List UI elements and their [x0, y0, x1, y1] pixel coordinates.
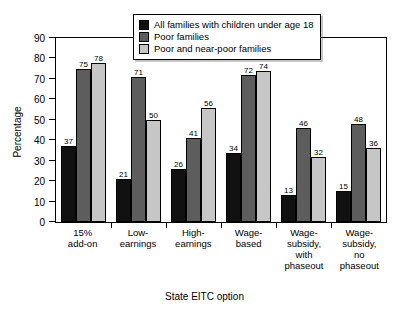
bar[interactable]: 72	[241, 75, 256, 222]
y-axis-tick: 20	[49, 180, 56, 181]
bar[interactable]: 46	[296, 128, 311, 222]
bar-value-label: 56	[204, 100, 213, 108]
bar-value-label: 41	[189, 130, 198, 138]
legend-label: Poor and near-poor families	[154, 43, 271, 55]
bar[interactable]: 15	[336, 191, 351, 222]
bar[interactable]: 75	[76, 69, 91, 222]
bar-value-label: 13	[284, 187, 293, 195]
y-axis-title-text: Percentage	[12, 52, 23, 212]
bar[interactable]: 13	[281, 195, 296, 222]
bar-slot: 48	[351, 38, 366, 222]
bar-slot: 74	[256, 38, 271, 222]
y-axis-tick-label: 70	[34, 73, 45, 84]
x-axis-category-label: Wage- subsidy, no phaseout	[332, 227, 387, 271]
bar-slot: 72	[241, 38, 256, 222]
bar[interactable]: 21	[116, 179, 131, 222]
bar[interactable]: 74	[256, 71, 271, 222]
bar-value-label: 72	[244, 67, 253, 75]
bar-slot: 34	[226, 38, 241, 222]
y-axis-tick: 90	[49, 37, 56, 38]
bar-value-label: 32	[314, 149, 323, 157]
x-axis-category-label: Wage- subsidy, with phaseout	[276, 227, 331, 271]
bar-chart: Percentage 0102030405060708090 377578217…	[0, 0, 409, 322]
y-axis-tick-label: 0	[39, 217, 45, 228]
x-axis-category-label: 15% add-on	[55, 227, 110, 271]
y-axis-tick: 0	[49, 221, 56, 222]
bar-value-label: 50	[149, 112, 158, 120]
bar-value-label: 48	[354, 116, 363, 124]
legend-item[interactable]: All families with children under age 18	[139, 19, 313, 31]
bar-value-label: 46	[299, 120, 308, 128]
bar-value-label: 15	[339, 183, 348, 191]
y-axis-tick: 40	[49, 139, 56, 140]
y-axis-tick: 10	[49, 201, 56, 202]
bar-groups: 377578217150264156347274134632154836	[56, 38, 386, 222]
bar-group: 377578	[56, 38, 111, 222]
bar-slot: 13	[281, 38, 296, 222]
bar-group: 347274	[221, 38, 276, 222]
bar-value-label: 21	[119, 171, 128, 179]
bar[interactable]: 36	[366, 148, 381, 222]
x-axis-title: State EITC option	[0, 291, 409, 302]
bar[interactable]: 48	[351, 124, 366, 222]
bar[interactable]: 71	[131, 77, 146, 222]
y-axis-tick: 60	[49, 98, 56, 99]
bar-group: 264156	[166, 38, 221, 222]
legend-item[interactable]: Poor families	[139, 31, 313, 43]
legend-color-swatch	[139, 20, 149, 30]
bar-value-label: 26	[174, 161, 183, 169]
bar-value-label: 74	[259, 63, 268, 71]
legend-color-swatch	[139, 32, 149, 42]
x-axis-category-labels: 15% add-onLow- earningsHigh- earningsWag…	[55, 227, 387, 271]
y-axis-tick: 70	[49, 78, 56, 79]
y-axis-tick: 30	[49, 160, 56, 161]
bar-group: 217150	[111, 38, 166, 222]
plot-area: 0102030405060708090 37757821715026415634…	[55, 37, 387, 223]
legend-label: All families with children under age 18	[154, 19, 313, 31]
bar[interactable]: 41	[186, 138, 201, 222]
bar-slot: 78	[91, 38, 106, 222]
x-axis-category-label: High- earnings	[166, 227, 221, 271]
y-axis-tick: 50	[49, 119, 56, 120]
y-axis-tick-label: 80	[34, 53, 45, 64]
bar-slot: 56	[201, 38, 216, 222]
bar-slot: 36	[366, 38, 381, 222]
bar-slot: 75	[76, 38, 91, 222]
y-axis-tick-label: 50	[34, 114, 45, 125]
bar-slot: 50	[146, 38, 161, 222]
y-axis-tick-label: 40	[34, 135, 45, 146]
x-axis-category-label: Wage- based	[221, 227, 276, 271]
bar-slot: 32	[311, 38, 326, 222]
bar-slot: 71	[131, 38, 146, 222]
bar[interactable]: 32	[311, 157, 326, 222]
y-axis-tick-label: 20	[34, 176, 45, 187]
bar[interactable]: 50	[146, 120, 161, 222]
bar[interactable]: 26	[171, 169, 186, 222]
bar-value-label: 34	[229, 145, 238, 153]
bar-slot: 15	[336, 38, 351, 222]
y-axis-title: Percentage	[2, 0, 13, 52]
bar-slot: 21	[116, 38, 131, 222]
bar-value-label: 78	[94, 55, 103, 63]
bar-group: 154836	[331, 38, 386, 222]
bar[interactable]: 56	[201, 108, 216, 222]
legend-item[interactable]: Poor and near-poor families	[139, 43, 313, 55]
bar-group: 134632	[276, 38, 331, 222]
bar[interactable]: 78	[91, 63, 106, 222]
y-axis-tick-label: 90	[34, 33, 45, 44]
bar[interactable]: 34	[226, 153, 241, 223]
legend-color-swatch	[139, 44, 149, 54]
x-axis-category-label: Low- earnings	[110, 227, 165, 271]
y-axis-tick-label: 30	[34, 155, 45, 166]
bar-slot: 46	[296, 38, 311, 222]
y-axis-tick-label: 60	[34, 94, 45, 105]
chart-legend: All families with children under age 18P…	[133, 14, 321, 60]
bar-value-label: 36	[369, 140, 378, 148]
bar-value-label: 75	[79, 61, 88, 69]
bar[interactable]: 37	[61, 146, 76, 222]
y-axis-tick: 80	[49, 57, 56, 58]
y-axis-tick-label: 10	[34, 196, 45, 207]
bar-slot: 41	[186, 38, 201, 222]
legend-label: Poor families	[154, 31, 209, 43]
bar-slot: 37	[61, 38, 76, 222]
